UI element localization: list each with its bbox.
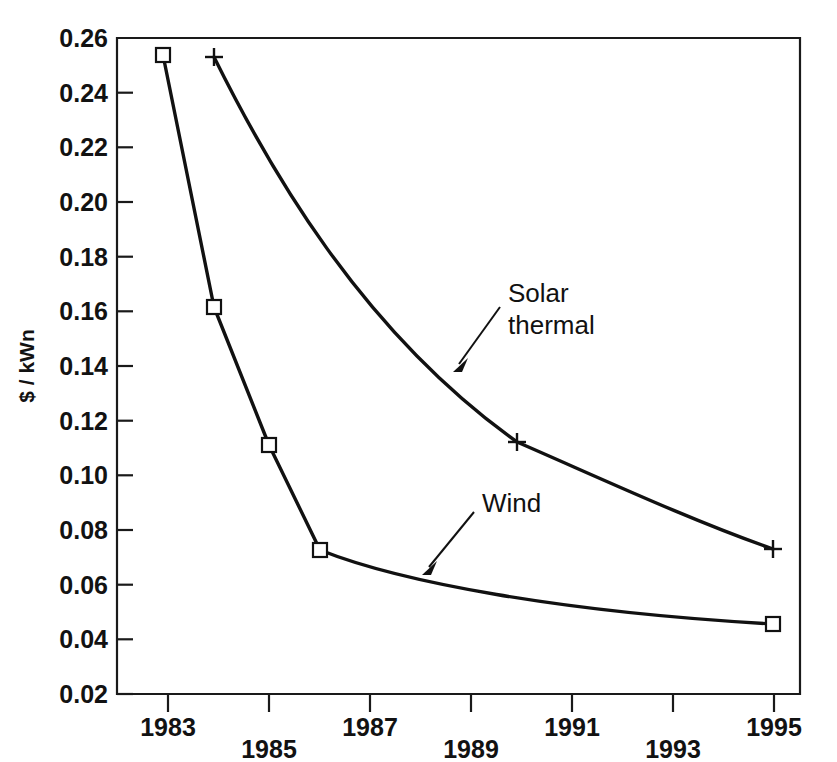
line-chart: 0.26 0.24 0.22 0.20 0.18 0.16 0.14 0.12 … [0, 0, 837, 762]
series-markers-solar-thermal [205, 48, 782, 558]
x-tick-label-1995: 1995 [746, 713, 802, 741]
y-tick-label-0.02: 0.02 [59, 680, 108, 708]
chart-container: 0.26 0.24 0.22 0.20 0.18 0.16 0.14 0.12 … [0, 0, 837, 762]
annotation-solar-thermal-line1: Solar [508, 278, 569, 308]
y-tick-label-0.16: 0.16 [59, 297, 108, 325]
y-axis-ticks [117, 93, 133, 694]
x-tick-label-1985: 1985 [241, 735, 297, 762]
data-point-wind-1984 [207, 300, 221, 314]
y-tick-label-0.14: 0.14 [59, 352, 108, 380]
y-axis-tick-labels: 0.26 0.24 0.22 0.20 0.18 0.16 0.14 0.12 … [59, 24, 108, 708]
x-axis-tick-labels: 1983 1985 1987 1989 1991 1993 1995 [140, 713, 802, 762]
series-markers-wind [156, 48, 780, 631]
data-point-wind-1995 [766, 617, 780, 631]
data-point-solar-1984 [205, 48, 223, 66]
annotation-solar-thermal-arrowhead [453, 358, 468, 372]
y-tick-label-0.10: 0.10 [59, 461, 108, 489]
x-tick-label-1989: 1989 [443, 735, 499, 762]
y-tick-label-0.04: 0.04 [59, 625, 108, 653]
x-tick-label-1991: 1991 [544, 713, 600, 741]
x-tick-label-1987: 1987 [342, 713, 398, 741]
data-point-solar-1995 [764, 540, 782, 558]
data-point-wind-1983 [156, 48, 170, 62]
y-tick-label-0.26: 0.26 [59, 24, 108, 52]
y-tick-label-0.20: 0.20 [59, 188, 108, 216]
y-tick-label-0.06: 0.06 [59, 571, 108, 599]
x-tick-label-1993: 1993 [645, 735, 701, 762]
plot-frame [117, 38, 800, 694]
annotation-solar-thermal-line2: thermal [508, 310, 595, 340]
annotation-wind-arrow [429, 512, 474, 567]
y-tick-label-0.18: 0.18 [59, 243, 108, 271]
y-tick-label-0.22: 0.22 [59, 133, 108, 161]
series-line-solar-thermal [214, 57, 773, 549]
annotation-wind-arrowhead [422, 561, 437, 575]
series-line-wind [163, 55, 773, 624]
y-axis-title: $ / kWn [15, 329, 38, 403]
annotation-wind: Wind [422, 488, 541, 575]
y-tick-label-0.08: 0.08 [59, 516, 108, 544]
x-axis-ticks [168, 694, 774, 712]
data-point-wind-1986 [313, 543, 327, 557]
y-tick-label-0.12: 0.12 [59, 407, 108, 435]
annotation-solar-thermal: Solar thermal [453, 278, 595, 372]
y-tick-label-0.24: 0.24 [59, 79, 108, 107]
data-point-wind-1985 [262, 438, 276, 452]
annotation-wind-label: Wind [482, 488, 541, 518]
x-tick-label-1983: 1983 [140, 713, 196, 741]
annotation-solar-thermal-arrow [459, 307, 500, 364]
